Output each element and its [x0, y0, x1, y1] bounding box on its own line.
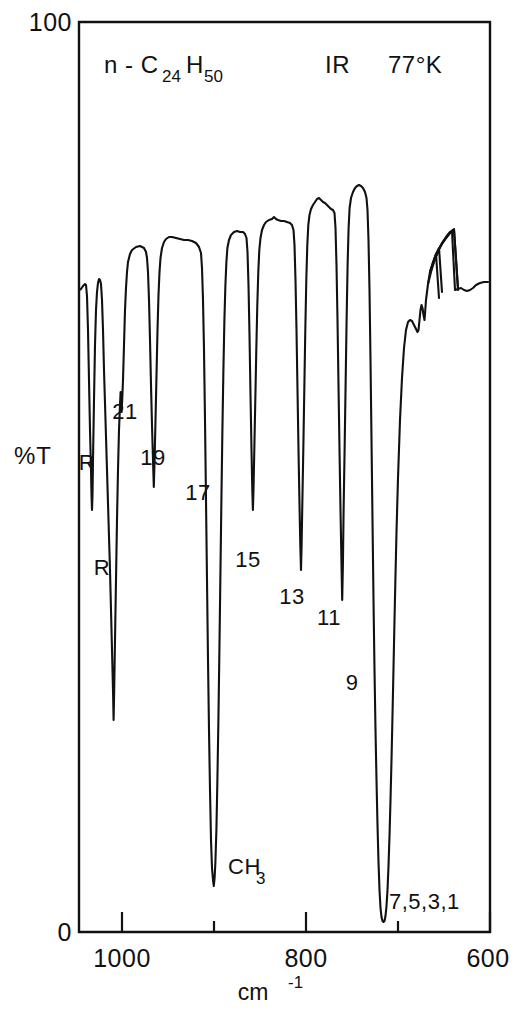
peak-label-ch3: CH 3	[228, 854, 265, 888]
sample-formula-prefix: n - C	[104, 51, 159, 78]
peak-label-19: 19	[140, 445, 165, 470]
y-axis-top-label: 100	[29, 8, 72, 36]
x-axis-title-superscript: -1	[288, 973, 303, 992]
peak-label-group-7531: 7,5,3,1	[389, 889, 460, 914]
xtick-label-1000: 1000	[93, 944, 151, 972]
temperature-label: 77°K	[388, 51, 442, 78]
sample-formula-sub-24: 24	[162, 67, 181, 86]
ir-spectrum-figure: 100 0 %T 1000 800 600 cm -1 n - C 24 H 5…	[0, 0, 523, 1012]
peak-label-r2: R	[94, 555, 110, 580]
sample-formula-h: H	[186, 51, 204, 78]
x-axis-title-main: cm	[238, 979, 269, 1005]
technique-label: IR	[325, 51, 350, 78]
peak-label-ch3-sub: 3	[256, 869, 265, 888]
peak-label-13: 13	[279, 584, 304, 609]
x-axis-title: cm -1	[238, 973, 303, 1005]
peak-label-15: 15	[235, 547, 260, 572]
sample-formula-sub-50: 50	[204, 67, 223, 86]
peak-label-17: 17	[185, 480, 210, 505]
spectrum-plot: 100 0 %T 1000 800 600 cm -1 n - C 24 H 5…	[0, 0, 523, 1012]
peak-label-r1: R	[79, 450, 95, 475]
y-axis-title: %T	[14, 442, 52, 469]
plot-frame	[79, 22, 490, 932]
peak-label-11: 11	[317, 605, 341, 630]
figure-title: n - C 24 H 50 IR 77°K	[104, 51, 442, 86]
peak-label-9: 9	[346, 670, 359, 695]
y-axis-bottom-label: 0	[58, 918, 72, 946]
xtick-label-600: 600	[466, 944, 509, 972]
xtick-label-800: 800	[284, 944, 327, 972]
peak-label-21: 21	[112, 399, 137, 424]
